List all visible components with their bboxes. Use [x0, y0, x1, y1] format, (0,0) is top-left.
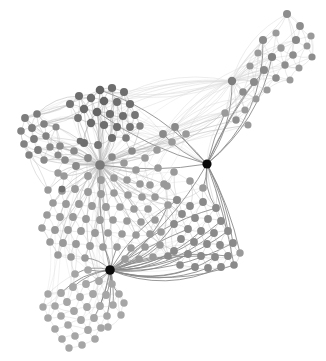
graph-node[interactable]	[99, 243, 107, 251]
graph-node-highlighted[interactable]	[105, 265, 115, 275]
graph-node[interactable]	[84, 326, 92, 334]
graph-node[interactable]	[90, 314, 98, 322]
graph-node[interactable]	[71, 185, 79, 193]
graph-node[interactable]	[177, 235, 185, 243]
graph-node-highlighted[interactable]	[202, 159, 211, 168]
graph-node[interactable]	[184, 250, 192, 258]
graph-node[interactable]	[44, 290, 51, 297]
graph-node[interactable]	[25, 151, 32, 158]
graph-node[interactable]	[49, 199, 57, 207]
graph-node[interactable]	[66, 100, 74, 108]
graph-node[interactable]	[84, 188, 92, 196]
graph-node[interactable]	[144, 205, 152, 213]
graph-node[interactable]	[77, 316, 85, 324]
graph-node[interactable]	[89, 290, 97, 298]
graph-node[interactable]	[131, 111, 139, 119]
graph-node[interactable]	[283, 10, 291, 18]
graph-node[interactable]	[190, 238, 198, 246]
graph-node[interactable]	[113, 98, 121, 106]
graph-node[interactable]	[113, 243, 121, 251]
graph-node[interactable]	[241, 106, 248, 113]
graph-node[interactable]	[64, 226, 72, 234]
graph-node[interactable]	[78, 341, 86, 349]
graph-node[interactable]	[71, 332, 79, 340]
graph-node[interactable]	[211, 253, 219, 261]
graph-node[interactable]	[52, 123, 59, 130]
graph-node[interactable]	[245, 122, 252, 129]
graph-node[interactable]	[204, 215, 212, 223]
graph-node[interactable]	[75, 92, 83, 100]
graph-node[interactable]	[93, 108, 102, 117]
graph-node[interactable]	[108, 280, 116, 288]
graph-node[interactable]	[176, 261, 184, 269]
graph-node[interactable]	[171, 123, 179, 131]
graph-node[interactable]	[184, 225, 192, 233]
graph-node[interactable]	[203, 240, 211, 248]
graph-node[interactable]	[72, 162, 80, 170]
graph-node[interactable]	[94, 141, 102, 149]
graph-node[interactable]	[40, 156, 47, 163]
graph-node[interactable]	[210, 229, 218, 237]
graph-node[interactable]	[70, 307, 78, 315]
graph-node[interactable]	[54, 251, 62, 259]
graph-node[interactable]	[132, 231, 140, 239]
graph-node[interactable]	[39, 303, 46, 310]
graph-node[interactable]	[173, 196, 181, 204]
graph-node[interactable]	[57, 289, 65, 297]
graph-node[interactable]	[221, 109, 228, 116]
graph-node[interactable]	[164, 252, 172, 260]
graph-node[interactable]	[59, 186, 65, 192]
graph-node[interactable]	[108, 134, 116, 142]
graph-node[interactable]	[124, 191, 132, 199]
graph-node[interactable]	[154, 164, 162, 172]
graph-node[interactable]	[77, 138, 84, 145]
graph-node[interactable]	[212, 204, 220, 212]
graph-node[interactable]	[20, 140, 28, 148]
graph-node[interactable]	[109, 301, 117, 309]
graph-node[interactable]	[120, 299, 127, 306]
graph-node[interactable]	[138, 193, 146, 201]
graph-node[interactable]	[186, 177, 194, 185]
graph-node[interactable]	[164, 201, 172, 209]
graph-node[interactable]	[65, 344, 72, 351]
graph-node[interactable]	[67, 253, 75, 261]
graph-node[interactable]	[116, 203, 124, 211]
graph-node[interactable]	[115, 290, 123, 298]
graph-node[interactable]	[182, 130, 190, 138]
graph-node[interactable]	[120, 159, 128, 167]
graph-node[interactable]	[141, 154, 149, 162]
graph-node[interactable]	[254, 49, 261, 56]
graph-node[interactable]	[136, 122, 143, 129]
graph-node[interactable]	[127, 244, 135, 252]
graph-node[interactable]	[236, 249, 243, 256]
graph-node[interactable]	[308, 53, 315, 60]
graph-node[interactable]	[250, 78, 258, 86]
graph-node[interactable]	[34, 146, 42, 154]
graph-node[interactable]	[272, 29, 279, 36]
graph-node[interactable]	[199, 184, 207, 192]
graph-node[interactable]	[186, 202, 194, 210]
graph-node[interactable]	[126, 100, 134, 108]
graph-node[interactable]	[69, 283, 77, 291]
graph-node[interactable]	[217, 217, 225, 225]
graph-node[interactable]	[62, 200, 70, 208]
graph-node[interactable]	[304, 43, 311, 50]
graph-node[interactable]	[81, 254, 89, 262]
graph-node[interactable]	[44, 314, 52, 322]
graph-node[interactable]	[17, 127, 25, 135]
graph-node[interactable]	[224, 252, 232, 260]
graph-node[interactable]	[178, 210, 186, 218]
graph-node[interactable]	[46, 238, 54, 246]
graph-node[interactable]	[123, 176, 131, 184]
graph-node[interactable]	[108, 153, 116, 161]
graph-node[interactable]	[63, 298, 71, 306]
graph-node[interactable]	[199, 198, 207, 206]
graph-node[interactable]	[228, 77, 236, 85]
graph-node[interactable]	[272, 74, 280, 82]
graph-node-hub[interactable]	[95, 160, 105, 170]
graph-node[interactable]	[58, 335, 66, 343]
graph-node[interactable]	[61, 156, 69, 164]
graph-node[interactable]	[100, 121, 108, 129]
graph-node[interactable]	[217, 263, 225, 271]
graph-node[interactable]	[170, 220, 178, 228]
